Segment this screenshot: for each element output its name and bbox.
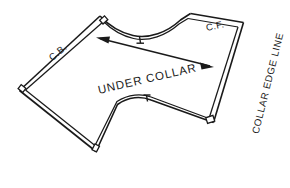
under-collar-pattern-drawing [0,0,290,188]
bottom-edge-notch [147,95,148,102]
neckline-notch [140,37,141,44]
pattern-diagram-canvas: C.B. C.F. UNDER COLLAR COLLAR EDGE LINE [0,0,290,188]
corner-notch-bottom-right [206,115,215,123]
